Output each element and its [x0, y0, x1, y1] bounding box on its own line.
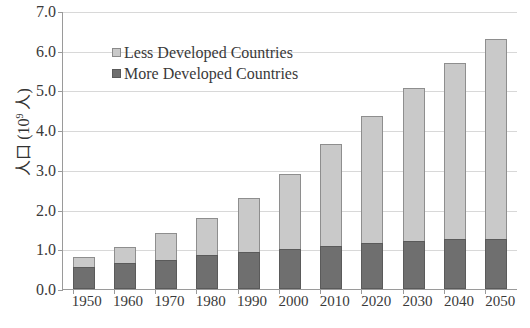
bar-column[interactable]	[320, 12, 342, 289]
y-axis-tick-label: 3.0	[36, 162, 56, 180]
y-axis-tick-label: 6.0	[36, 43, 56, 61]
bar-segment-less-developed[interactable]	[238, 198, 260, 252]
legend-swatch-icon	[112, 69, 121, 78]
x-axis-tick-label: 1970	[154, 293, 176, 323]
x-axis-tick-label: 2040	[444, 293, 466, 323]
bar-segment-more-developed[interactable]	[114, 263, 136, 289]
legend: Less Developed Countries More Developed …	[112, 42, 298, 84]
bar-column[interactable]	[403, 12, 425, 289]
x-axis-tick-label: 1990	[237, 293, 259, 323]
x-axis-tick-labels: 1950196019701980199020002010202020302040…	[62, 293, 517, 323]
legend-item-more-developed: More Developed Countries	[112, 63, 298, 84]
legend-item-less-developed: Less Developed Countries	[112, 42, 298, 63]
population-stacked-bar-chart: 人口 (109 人) 7.06.05.04.03.02.01.00.0 1950…	[0, 0, 530, 328]
y-axis-tick-label: 5.0	[36, 82, 56, 100]
y-axis-tick-mark	[58, 290, 63, 291]
bar-segment-less-developed[interactable]	[196, 218, 218, 256]
bar-segment-less-developed[interactable]	[444, 63, 466, 240]
bar-segment-more-developed[interactable]	[361, 243, 383, 289]
legend-label: Less Developed Countries	[124, 42, 293, 63]
bar-column[interactable]	[444, 12, 466, 289]
bar-segment-more-developed[interactable]	[403, 241, 425, 289]
bar-segment-less-developed[interactable]	[361, 116, 383, 243]
bar-segment-more-developed[interactable]	[73, 267, 95, 289]
y-axis-tick-label: 2.0	[36, 202, 56, 220]
bar-column[interactable]	[485, 12, 507, 289]
y-axis-tick-labels: 7.06.05.04.03.02.01.00.0	[0, 12, 56, 290]
x-axis-tick-label: 2030	[403, 293, 425, 323]
bar-segment-more-developed[interactable]	[485, 239, 507, 289]
bar-segment-more-developed[interactable]	[155, 260, 177, 289]
legend-label: More Developed Countries	[124, 63, 298, 84]
legend-swatch-icon	[112, 48, 121, 57]
bar-segment-less-developed[interactable]	[155, 233, 177, 260]
bar-segment-less-developed[interactable]	[114, 247, 136, 263]
y-axis-tick-label: 0.0	[36, 281, 56, 299]
x-axis-tick-label: 1980	[196, 293, 218, 323]
x-axis-tick-label: 2020	[361, 293, 383, 323]
bar-segment-more-developed[interactable]	[279, 249, 301, 289]
x-axis-tick-label: 2000	[278, 293, 300, 323]
y-axis-tick-label: 7.0	[36, 3, 56, 21]
y-axis-tick-label: 4.0	[36, 122, 56, 140]
x-axis-tick-label: 1950	[72, 293, 94, 323]
bar-column[interactable]	[73, 12, 95, 289]
bar-segment-less-developed[interactable]	[73, 257, 95, 267]
bar-segment-more-developed[interactable]	[444, 239, 466, 289]
bar-segment-more-developed[interactable]	[238, 252, 260, 289]
bar-segment-less-developed[interactable]	[403, 88, 425, 241]
bar-segment-more-developed[interactable]	[196, 255, 218, 289]
bar-segment-less-developed[interactable]	[485, 39, 507, 240]
x-axis-tick-label: 2050	[485, 293, 507, 323]
bar-segment-less-developed[interactable]	[279, 174, 301, 249]
x-axis-tick-label: 2010	[320, 293, 342, 323]
bar-segment-more-developed[interactable]	[320, 246, 342, 289]
bar-column[interactable]	[361, 12, 383, 289]
y-axis-tick-label: 1.0	[36, 241, 56, 259]
x-axis-tick-label: 1960	[113, 293, 135, 323]
bar-segment-less-developed[interactable]	[320, 144, 342, 246]
